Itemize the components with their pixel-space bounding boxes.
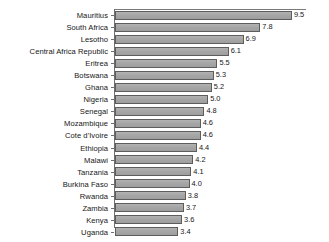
- bar-value-label: 5.2: [214, 82, 224, 93]
- bar-row: Central Africa Republic6.1: [0, 46, 329, 58]
- category-label: Zambia: [0, 203, 108, 214]
- axis-tick: [111, 75, 114, 76]
- axis-tick: [111, 99, 114, 100]
- bar: [115, 107, 204, 116]
- bar-value-label: 5.3: [216, 70, 226, 81]
- axis-tick: [111, 15, 114, 16]
- bar: [115, 203, 184, 212]
- axis-tick: [111, 39, 114, 40]
- bar: [115, 179, 190, 188]
- bar-container: [115, 227, 178, 237]
- bar-value-label: 4.2: [195, 155, 205, 166]
- bar-container: [115, 203, 184, 213]
- bar-container: [115, 11, 292, 21]
- bar-row: Rwanda3.8: [0, 191, 329, 203]
- bar-value-label: 3.8: [188, 191, 198, 202]
- bar-container: [115, 119, 201, 129]
- category-label: Nigeria: [0, 94, 108, 105]
- bar-container: [115, 83, 212, 93]
- bar-container: [115, 95, 208, 105]
- bar-value-label: 7.8: [262, 22, 272, 33]
- bar: [115, 83, 212, 92]
- bar-row: South Africa7.8: [0, 22, 329, 34]
- bar-value-label: 4.0: [192, 179, 202, 190]
- category-label: Senegal: [0, 106, 108, 117]
- bar-row: Lesotho6.9: [0, 34, 329, 46]
- bar-value-label: 9.5: [294, 10, 304, 21]
- bar-value-label: 3.4: [180, 227, 190, 238]
- category-label: Uganda: [0, 227, 108, 238]
- bar-container: [115, 167, 191, 177]
- category-label: South Africa: [0, 22, 108, 33]
- axis-tick: [111, 208, 114, 209]
- axis-tick: [111, 160, 114, 161]
- bar-row: Uganda3.4: [0, 227, 329, 239]
- bar-value-label: 4.4: [199, 143, 209, 154]
- category-label: Rwanda: [0, 191, 108, 202]
- bar-value-label: 4.6: [203, 118, 213, 129]
- category-label: Ghana: [0, 82, 108, 93]
- axis-tick: [111, 51, 114, 52]
- bar: [115, 167, 191, 176]
- bar-row: Ethiopia4.4: [0, 143, 329, 155]
- bar-value-label: 4.8: [206, 106, 216, 117]
- bar-container: [115, 155, 193, 165]
- axis-tick: [111, 111, 114, 112]
- axis-tick: [111, 172, 114, 173]
- axis-tick: [111, 232, 114, 233]
- bar-container: [115, 71, 214, 81]
- bar-container: [115, 143, 197, 153]
- category-label: Burkina Faso: [0, 179, 108, 190]
- bar: [115, 71, 214, 80]
- bar-row: Mauritius9.5: [0, 10, 329, 22]
- bar-row: Mozambique4.6: [0, 118, 329, 130]
- bar: [115, 35, 244, 44]
- category-label: Ethiopia: [0, 143, 108, 154]
- bar-container: [115, 179, 190, 189]
- bar-row: Ghana5.2: [0, 82, 329, 94]
- axis-tick: [111, 220, 114, 221]
- bar: [115, 155, 193, 164]
- bar-container: [115, 59, 217, 69]
- bar: [115, 191, 186, 200]
- bar-value-label: 6.9: [246, 34, 256, 45]
- bar: [115, 59, 217, 68]
- bar: [115, 143, 197, 152]
- bar-row: Cote d'Ivoire4.6: [0, 130, 329, 142]
- bar-rows: Mauritius9.5South Africa7.8Lesotho6.9Cen…: [0, 10, 329, 239]
- category-label: Botswana: [0, 70, 108, 81]
- bar-value-label: 6.1: [231, 46, 241, 57]
- bar: [115, 131, 201, 140]
- axis-tick: [111, 135, 114, 136]
- bar: [115, 47, 229, 56]
- axis-tick: [111, 184, 114, 185]
- bar-row: Senegal4.8: [0, 106, 329, 118]
- axis-tick: [111, 196, 114, 197]
- bar: [115, 215, 182, 224]
- category-label: Lesotho: [0, 34, 108, 45]
- bar-container: [115, 35, 244, 45]
- bar: [115, 227, 178, 236]
- bar-row: Burkina Faso4.0: [0, 179, 329, 191]
- category-label: Mauritius: [0, 10, 108, 21]
- axis-tick: [111, 27, 114, 28]
- category-label: Central Africa Republic: [0, 46, 108, 57]
- bar: [115, 11, 292, 20]
- axis-tick: [111, 123, 114, 124]
- category-label: Cote d'Ivoire: [0, 130, 108, 141]
- bar-value-label: 4.6: [203, 130, 213, 141]
- bar-value-label: 4.1: [193, 167, 203, 178]
- bar-value-label: 5.0: [210, 94, 220, 105]
- axis-tick: [111, 148, 114, 149]
- bar-row: Zambia3.7: [0, 203, 329, 215]
- bar-value-label: 3.6: [184, 215, 194, 226]
- category-label: Malawi: [0, 155, 108, 166]
- bar-value-label: 3.7: [186, 203, 196, 214]
- axis-tick: [111, 87, 114, 88]
- axis-tick: [111, 63, 114, 64]
- bar: [115, 95, 208, 104]
- bar-row: Malawi4.2: [0, 155, 329, 167]
- category-label: Kenya: [0, 215, 108, 226]
- bar-row: Botswana5.3: [0, 70, 329, 82]
- category-label: Mozambique: [0, 118, 108, 129]
